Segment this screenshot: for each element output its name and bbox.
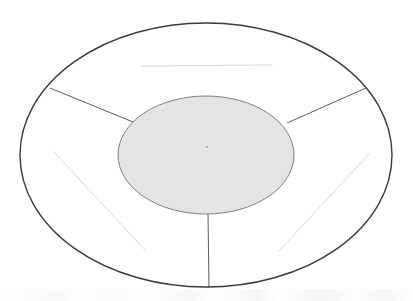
inner-shaded-ellipse	[118, 96, 294, 214]
diagram-svg	[0, 0, 413, 301]
diagram-canvas	[0, 0, 413, 301]
center-point-mark	[206, 146, 208, 148]
